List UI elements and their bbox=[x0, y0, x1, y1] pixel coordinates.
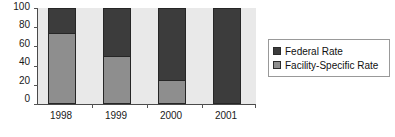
bar-segment-federal-2001 bbox=[214, 9, 240, 103]
x-axis-label-1998: 1998 bbox=[38, 110, 84, 121]
x-axis-tick-mark-4 bbox=[255, 104, 256, 108]
x-axis-tick-mark-1 bbox=[92, 104, 93, 108]
bar-segment-federal-1999 bbox=[104, 9, 130, 56]
x-axis-label-2001: 2001 bbox=[203, 110, 249, 121]
legend-label-federal-rate: Federal Rate bbox=[285, 46, 343, 57]
y-axis-tick-label-20: 20 bbox=[0, 76, 30, 86]
bar-segment-facility-1998 bbox=[49, 33, 75, 104]
bar-segment-facility-2000 bbox=[159, 80, 185, 104]
y-axis-tick-label-0: 0 bbox=[0, 94, 30, 104]
legend-swatch-facility-icon bbox=[273, 61, 281, 69]
stacked-bar-1998[interactable] bbox=[48, 8, 76, 104]
x-axis-tick-mark-2 bbox=[147, 104, 148, 108]
stacked-bar-2001[interactable] bbox=[213, 8, 241, 104]
y-axis-tick-label-100: 100 bbox=[0, 2, 30, 12]
bars-container bbox=[38, 8, 256, 104]
bar-group-1998 bbox=[48, 8, 76, 104]
x-axis-label-1999: 1999 bbox=[93, 110, 139, 121]
bar-segment-federal-2000 bbox=[159, 9, 185, 80]
x-axis-tick-mark-3 bbox=[202, 104, 203, 108]
legend-item-facility-specific-rate[interactable]: Facility-Specific Rate bbox=[273, 58, 385, 72]
chart-legend: Federal Rate Facility-Specific Rate bbox=[268, 39, 390, 77]
legend-label-facility-specific-rate: Facility-Specific Rate bbox=[285, 60, 378, 71]
bar-segment-federal-1998 bbox=[49, 9, 75, 33]
y-axis-tick-label-80: 80 bbox=[0, 20, 30, 30]
bar-segment-facility-1999 bbox=[104, 56, 130, 103]
y-axis-tick-mark-0 bbox=[34, 104, 38, 105]
stacked-bar-2000[interactable] bbox=[158, 8, 186, 104]
legend-item-federal-rate[interactable]: Federal Rate bbox=[273, 44, 385, 58]
x-axis-label-2000: 2000 bbox=[148, 110, 194, 121]
y-axis-tick-label-40: 40 bbox=[0, 57, 30, 67]
bar-group-2001 bbox=[213, 8, 241, 104]
bar-group-2000 bbox=[158, 8, 186, 104]
stacked-bar-1999[interactable] bbox=[103, 8, 131, 104]
y-axis-tick-labels: 0 20 40 60 80 100 bbox=[0, 3, 30, 107]
stacked-bar-chart-figure: 0 20 40 60 80 100 bbox=[0, 0, 395, 137]
bar-group-1999 bbox=[103, 8, 131, 104]
legend-swatch-federal-icon bbox=[273, 47, 281, 55]
y-axis-tick-label-60: 60 bbox=[0, 39, 30, 49]
plot-area bbox=[37, 8, 256, 105]
